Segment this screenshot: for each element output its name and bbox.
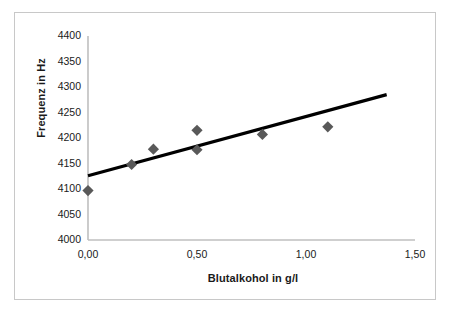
chart-figure: Frequenz in Hz Blutalkohol in g/l 400040…	[0, 0, 450, 313]
data-point-marker	[126, 159, 137, 170]
axis-lines	[88, 36, 415, 240]
data-point-marker	[322, 121, 333, 132]
plot-area	[0, 0, 450, 313]
data-points	[82, 121, 333, 196]
data-point-marker	[82, 185, 93, 196]
data-point-marker	[191, 125, 202, 136]
data-point-marker	[148, 144, 159, 155]
